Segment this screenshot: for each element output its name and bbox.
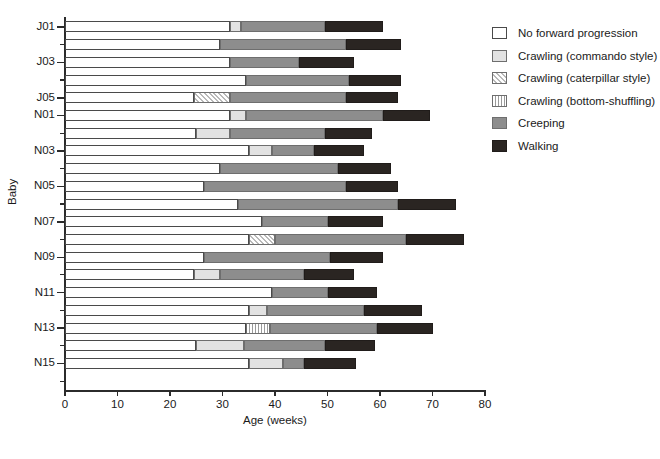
bar-segment-none bbox=[65, 128, 196, 139]
x-axis-label-40: 40 bbox=[269, 398, 282, 410]
bar-row[interactable] bbox=[65, 128, 485, 139]
bar-row[interactable] bbox=[65, 305, 485, 316]
legend-item-walking[interactable]: Walking bbox=[492, 135, 657, 158]
legend-item-none[interactable]: No forward progression bbox=[492, 22, 657, 45]
x-axis-label-20: 20 bbox=[164, 398, 177, 410]
bar-segment-none bbox=[65, 163, 220, 174]
bar-row[interactable] bbox=[65, 75, 485, 86]
bar-segment-none bbox=[65, 305, 249, 316]
bar-segment-creeping bbox=[283, 358, 304, 369]
x-axis-tick bbox=[222, 390, 223, 396]
bar-row[interactable] bbox=[65, 181, 485, 192]
x-axis-tick bbox=[274, 390, 275, 396]
legend-label: No forward progression bbox=[518, 27, 638, 39]
y-axis-label-n07: N07 bbox=[34, 216, 55, 228]
bar-row[interactable] bbox=[65, 21, 485, 32]
bar-row[interactable] bbox=[65, 323, 485, 334]
bar-segment-creeping bbox=[204, 181, 346, 192]
legend-swatch-commando bbox=[492, 50, 507, 62]
bar-segment-walking bbox=[346, 181, 399, 192]
bar-row[interactable] bbox=[65, 234, 485, 245]
bar-segment-commando bbox=[230, 110, 246, 121]
bar-segment-walking bbox=[383, 110, 430, 121]
bar-segment-walking bbox=[364, 305, 422, 316]
x-axis-tick bbox=[117, 390, 118, 396]
bar-row[interactable] bbox=[65, 199, 485, 210]
bar-row[interactable] bbox=[65, 252, 485, 263]
bar-segment-walking bbox=[377, 323, 432, 334]
bar-segment-commando bbox=[196, 128, 230, 139]
bar-segment-none bbox=[65, 287, 272, 298]
bar-segment-creeping bbox=[244, 340, 325, 351]
x-axis-tick bbox=[64, 390, 65, 396]
bar-segment-walking bbox=[346, 39, 401, 50]
bar-row[interactable] bbox=[65, 376, 485, 387]
bar-segment-none bbox=[65, 199, 238, 210]
bar-segment-creeping bbox=[220, 269, 304, 280]
x-axis-tick bbox=[169, 390, 170, 396]
bar-segment-creeping bbox=[262, 216, 328, 227]
y-axis-title: Baby bbox=[6, 179, 18, 205]
x-axis-tick bbox=[484, 390, 485, 396]
bar-segment-creeping bbox=[204, 252, 330, 263]
bar-row[interactable] bbox=[65, 358, 485, 369]
y-axis-label-n11: N11 bbox=[35, 287, 55, 299]
bar-segment-walking bbox=[304, 269, 354, 280]
y-axis-tick bbox=[57, 363, 65, 364]
bar-segment-caterpillar bbox=[194, 92, 231, 103]
bar-segment-creeping bbox=[241, 21, 325, 32]
bar-segment-walking bbox=[406, 234, 464, 245]
x-axis-tick bbox=[327, 390, 328, 396]
bar-segment-walking bbox=[330, 252, 383, 263]
bar-segment-creeping bbox=[220, 163, 338, 174]
bar-segment-commando bbox=[230, 21, 241, 32]
legend-item-commando[interactable]: Crawling (commando style) bbox=[492, 45, 657, 68]
bar-segment-none bbox=[65, 340, 196, 351]
bar-row[interactable] bbox=[65, 340, 485, 351]
x-axis-label-0: 0 bbox=[62, 398, 68, 410]
legend-label: Crawling (caterpillar style) bbox=[518, 72, 650, 84]
bar-segment-commando bbox=[194, 269, 220, 280]
legend-item-creeping[interactable]: Creeping bbox=[492, 112, 657, 135]
x-axis-label-50: 50 bbox=[321, 398, 334, 410]
bar-row[interactable] bbox=[65, 269, 485, 280]
x-axis-label-30: 30 bbox=[216, 398, 229, 410]
y-axis-tick bbox=[57, 115, 65, 116]
legend-swatch-shuffle bbox=[492, 95, 507, 107]
y-axis-tick bbox=[57, 327, 65, 328]
bar-segment-none bbox=[65, 110, 230, 121]
bar-segment-walking bbox=[325, 21, 383, 32]
bar-segment-shuffle bbox=[246, 323, 270, 334]
bar-row[interactable] bbox=[65, 39, 485, 50]
bar-segment-none bbox=[65, 21, 230, 32]
legend-item-caterpillar[interactable]: Crawling (caterpillar style) bbox=[492, 67, 657, 90]
bar-segment-creeping bbox=[230, 128, 325, 139]
bar-segment-walking bbox=[299, 57, 354, 68]
bar-segment-commando bbox=[249, 145, 273, 156]
legend: No forward progressionCrawling (commando… bbox=[492, 22, 657, 157]
x-axis-tick bbox=[432, 390, 433, 396]
bar-segment-creeping bbox=[230, 92, 346, 103]
bar-row[interactable] bbox=[65, 287, 485, 298]
legend-label: Creeping bbox=[518, 117, 565, 129]
legend-label: Crawling (bottom-shuffling) bbox=[518, 95, 655, 107]
bar-row[interactable] bbox=[65, 145, 485, 156]
bar-row[interactable] bbox=[65, 57, 485, 68]
bar-segment-creeping bbox=[270, 323, 378, 334]
bar-row[interactable] bbox=[65, 163, 485, 174]
bar-segment-none bbox=[65, 181, 204, 192]
bar-segment-creeping bbox=[246, 110, 383, 121]
bar-segment-creeping bbox=[267, 305, 364, 316]
plot-area: J01J03J05N01N03N05N07N09N11N13N15 bbox=[65, 18, 485, 390]
bar-segment-commando bbox=[196, 340, 243, 351]
bar-row[interactable] bbox=[65, 92, 485, 103]
y-axis-label-n03: N03 bbox=[34, 145, 55, 157]
x-axis-tick bbox=[379, 390, 380, 396]
x-axis-label-60: 60 bbox=[374, 398, 387, 410]
bar-segment-walking bbox=[398, 199, 456, 210]
bar-segment-walking bbox=[338, 163, 391, 174]
legend-item-shuffle[interactable]: Crawling (bottom-shuffling) bbox=[492, 90, 657, 113]
bar-row[interactable] bbox=[65, 110, 485, 121]
bar-row[interactable] bbox=[65, 216, 485, 227]
bar-segment-walking bbox=[346, 92, 399, 103]
